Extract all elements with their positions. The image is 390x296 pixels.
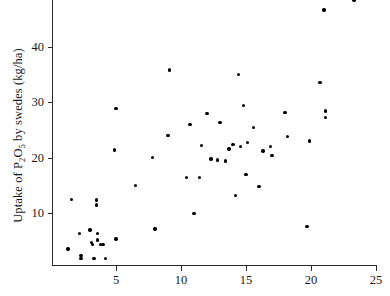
data-point [66,247,69,250]
data-point [261,149,264,152]
data-point [252,126,255,129]
data-point [166,134,169,137]
data-point [151,156,154,159]
data-point [352,0,355,2]
x-tick-label: 20 [296,274,326,287]
data-point [200,144,203,147]
data-point [269,145,272,148]
data-point [96,232,99,235]
y-axis-title: Uptake of P2O5 by swedes (kg/ha) [11,36,26,236]
data-point [242,104,245,107]
x-tick-label: 10 [166,274,196,287]
data-point [95,203,98,206]
data-point [231,143,234,146]
data-point [246,141,249,144]
data-point [188,123,191,126]
data-point [79,257,82,260]
x-tick-mark [376,266,377,271]
data-point [92,257,95,260]
data-point [286,135,289,138]
y-tick-label: 10 [14,207,44,220]
data-point [96,238,99,241]
data-point [244,173,247,176]
data-point [205,112,208,115]
data-point [324,109,327,112]
x-tick-label: 15 [231,274,261,287]
data-point [78,232,81,235]
data-point [88,228,91,231]
data-point [237,73,240,76]
data-point [257,185,260,188]
data-point [322,8,325,11]
data-point [198,176,201,179]
y-tick-label: 40 [14,41,44,54]
data-point [101,243,104,246]
x-tick-mark [181,266,182,271]
data-point [192,212,195,215]
y-axis-title-sub-5: 5 [16,144,26,148]
data-point [216,158,219,161]
data-point [185,176,188,179]
data-point [283,111,286,114]
data-point [114,107,117,110]
data-point [70,198,73,201]
data-point [134,184,137,187]
data-point [308,139,311,142]
data-point [114,237,117,240]
scatter-plot-figure: Uptake of P2O5 by swedes (kg/ha) 1020304… [0,0,390,296]
data-point [153,227,156,230]
plot-area: 10203040 510152025 [52,0,377,266]
data-point [113,148,116,151]
data-point [324,116,327,119]
data-point [234,194,237,197]
data-point [239,145,242,148]
data-point [218,121,221,124]
x-tick-mark [116,266,117,271]
data-point [227,147,230,150]
x-tick-label: 25 [361,274,390,287]
x-tick-mark [311,266,312,271]
data-point [270,154,273,157]
data-point [318,81,321,84]
data-point [104,257,107,260]
data-point [168,68,171,71]
data-point [95,198,98,201]
y-tick-label: 20 [14,152,44,165]
data-point [224,159,227,162]
data-points-layer [52,0,377,266]
data-point [305,225,308,228]
x-tick-label: 5 [101,274,131,287]
data-point [91,243,94,246]
y-tick-label: 30 [14,96,44,109]
x-tick-mark [246,266,247,271]
data-point [209,157,212,160]
